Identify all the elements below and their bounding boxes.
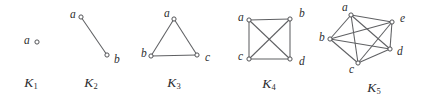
edge-k3-bc [151, 55, 197, 56]
graph-k5: abcdeK5 [319, 1, 405, 97]
edge-k4-ab [249, 19, 290, 20]
edge-layer-k4 [249, 19, 290, 59]
vertex-label-k4-a: a [238, 11, 244, 23]
vertex-label-k5-e: e [400, 12, 405, 24]
vertex-k4-c [247, 57, 251, 61]
vertex-k5-a [349, 13, 353, 17]
graph-k4: abcdK4 [238, 7, 305, 93]
vertex-label-k3-a: a [164, 7, 170, 19]
vertex-k5-e [390, 20, 394, 24]
vertex-label-k5-b: b [319, 31, 325, 43]
vertex-label-k3-c: c [205, 51, 210, 63]
edge-k5-de [390, 22, 392, 49]
caption-k3: K3 [166, 75, 180, 91]
vertex-label-k2-a: a [70, 8, 76, 20]
edge-k5-be [330, 22, 392, 39]
vertex-k1-a [35, 40, 39, 44]
edge-k5-cd [358, 49, 390, 63]
vertex-label-k4-b: b [299, 7, 305, 19]
edge-k3-ac [174, 19, 197, 55]
edge-layer-k5 [330, 15, 392, 63]
vertex-k3-a [172, 17, 176, 21]
caption-k5: K5 [366, 80, 380, 96]
vertex-k2-a [79, 15, 83, 19]
vertex-k4-a [247, 18, 251, 22]
edge-layer-k3 [151, 19, 197, 56]
vertex-k5-d [388, 47, 392, 51]
caption-k2: K2 [83, 75, 97, 91]
caption-subscript-k2: 2 [93, 81, 97, 91]
vertex-k4-d [288, 57, 292, 61]
vertex-k4-b [288, 17, 292, 21]
caption-subscript-k1: 1 [33, 81, 37, 91]
caption-k4: K4 [261, 76, 276, 92]
graph-canvas: aK1abK2abcK3abcdK4abcdeK5 [0, 0, 422, 98]
vertex-label-k3-b: b [141, 47, 147, 59]
edge-k2-ab [81, 17, 107, 55]
vertex-label-k5-a: a [342, 1, 348, 13]
vertex-label-k1-a: a [24, 34, 30, 46]
vertex-label-k5-c: c [349, 63, 354, 75]
graph-k3: abcK3 [141, 7, 210, 92]
vertex-k5-b [328, 37, 332, 41]
vertex-k3-c [195, 53, 199, 57]
edge-layer-k2 [81, 17, 107, 55]
vertex-k3-b [149, 54, 153, 58]
caption-subscript-k4: 4 [271, 82, 276, 92]
vertex-label-k5-d: d [397, 45, 403, 57]
graph-k1: aK1 [23, 34, 39, 92]
edge-k5-ac [351, 15, 358, 63]
edge-k5-ce [358, 22, 392, 63]
vertex-label-k4-d: d [299, 55, 305, 67]
edge-k5-ab [330, 15, 351, 39]
vertex-k2-b [105, 53, 109, 57]
edge-k3-ab [151, 19, 174, 56]
caption-subscript-k3: 3 [176, 81, 180, 91]
vertex-label-k2-b: b [114, 53, 120, 65]
complete-graphs-figure: aK1abK2abcK3abcdK4abcdeK5 [0, 0, 422, 98]
vertex-k5-c [356, 61, 360, 65]
caption-k1: K1 [23, 75, 37, 91]
vertex-label-k4-c: c [238, 50, 243, 62]
graph-k2: abK2 [70, 8, 120, 92]
caption-subscript-k5: 5 [376, 86, 380, 96]
